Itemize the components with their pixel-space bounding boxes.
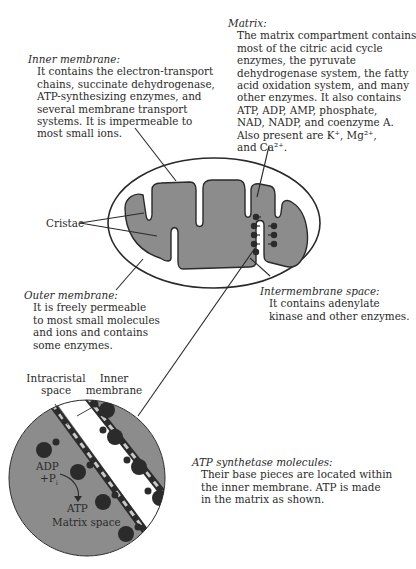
intermembrane-space-description: It contains adenylate kinase and other e… bbox=[260, 297, 410, 322]
atp-product-label: ATP bbox=[67, 502, 88, 514]
inner-membrane-label: Inner membrane: It contains the electron… bbox=[28, 53, 215, 140]
inner-membrane-title: Inner membrane: bbox=[28, 53, 215, 65]
inner-membrane-description: It contains the electron-transport chain… bbox=[28, 65, 215, 139]
matrix-space-label: Matrix space bbox=[52, 516, 121, 528]
matrix-label: Matrix: The matrix compartment contains … bbox=[228, 17, 416, 153]
outer-membrane-title: Outer membrane: bbox=[24, 289, 160, 301]
leader-outer-membrane bbox=[116, 259, 143, 290]
intermembrane-space-title: Intermembrane space: bbox=[260, 285, 410, 297]
inset-inner-membrane-label: Inner membrane bbox=[84, 372, 144, 396]
outer-membrane-label: Outer membrane: It is freely permeable t… bbox=[24, 289, 160, 351]
cristae-label: Cristae bbox=[46, 217, 84, 229]
atp-synthetase-title: ATP synthetase molecules: bbox=[192, 456, 392, 468]
intermembrane-space-label: Intermembrane space: It contains adenyla… bbox=[260, 285, 410, 322]
atp-synthetase-label: ATP synthetase molecules: Their base pie… bbox=[192, 456, 392, 506]
matrix-title: Matrix: bbox=[228, 17, 416, 29]
pi-label: +Pi bbox=[40, 472, 58, 489]
intracristal-space-label: Intracristal space bbox=[26, 372, 86, 396]
adp-label: ADP bbox=[36, 460, 59, 472]
outer-membrane-description: It is freely permeable to most small mol… bbox=[24, 301, 160, 351]
atp-synthetase-description: Their base pieces are located within the… bbox=[192, 468, 392, 505]
matrix-description: The matrix compartment contains most of … bbox=[228, 29, 416, 153]
